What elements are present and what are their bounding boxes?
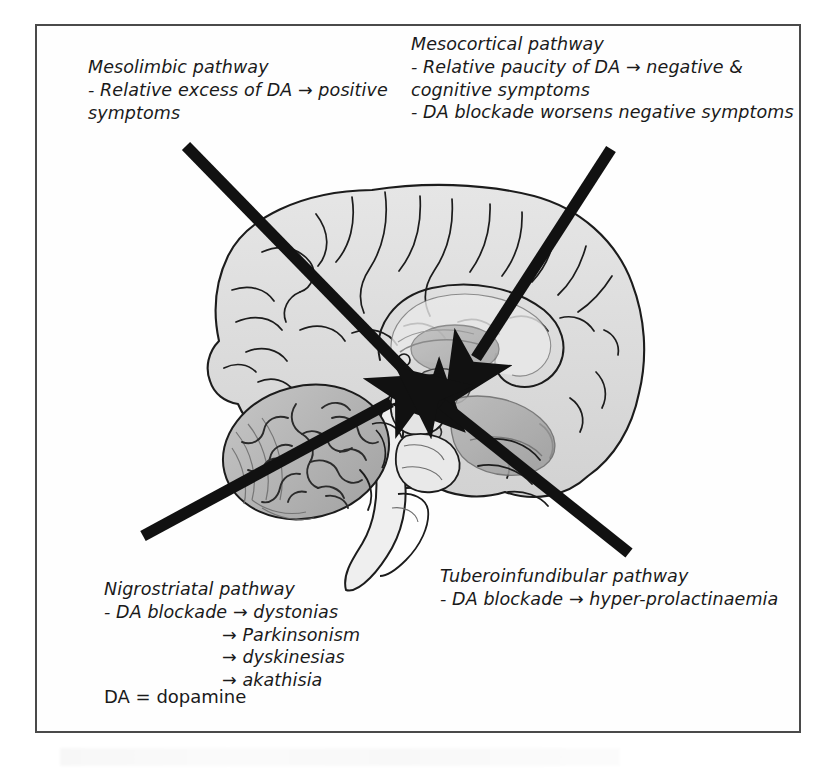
- label-mesolimbic: Mesolimbic pathway - Relative excess of …: [88, 56, 388, 124]
- mesocortical-title: Mesocortical pathway: [411, 33, 794, 56]
- nigrostriatal-effect-1: → Parkinsonism: [104, 624, 360, 647]
- dopamine-pathways-figure: Mesolimbic pathway - Relative excess of …: [0, 0, 835, 772]
- label-mesocortical: Mesocortical pathway - Relative paucity …: [411, 33, 794, 124]
- label-tuberoinfundibular: Tuberoinfundibular pathway - DA blockade…: [440, 565, 778, 611]
- label-nigrostriatal: Nigrostriatal pathway - DA blockade → dy…: [104, 578, 360, 692]
- mesocortical-line-1: - Relative paucity of DA → negative &: [411, 56, 794, 79]
- mesocortical-line-3: - DA blockade worsens negative symptoms: [411, 101, 794, 124]
- scan-artifact: [60, 748, 620, 766]
- tuberoinfundibular-line-1: - DA blockade → hyper-prolactinaemia: [440, 588, 778, 611]
- mesolimbic-line-2: symptoms: [88, 102, 388, 125]
- tuberoinfundibular-title: Tuberoinfundibular pathway: [440, 565, 778, 588]
- legend-da-dopamine: DA = dopamine: [104, 686, 246, 707]
- mesolimbic-line-1: - Relative excess of DA → positive: [88, 79, 388, 102]
- nigrostriatal-line-1: - DA blockade → dystonias: [104, 601, 360, 624]
- nigrostriatal-title: Nigrostriatal pathway: [104, 578, 360, 601]
- mesocortical-line-2: cognitive symptoms: [411, 79, 794, 102]
- mesolimbic-title: Mesolimbic pathway: [88, 56, 388, 79]
- nigrostriatal-effect-2: → dyskinesias: [104, 646, 360, 669]
